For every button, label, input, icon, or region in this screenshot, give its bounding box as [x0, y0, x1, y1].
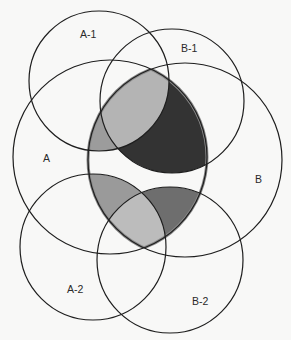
- venn-diagram: A-1 B-1 A B A-2 B-2: [0, 0, 291, 340]
- label-a-1: A-1: [80, 28, 97, 40]
- shading-in-A-and-B: [20, 11, 244, 333]
- label-b-2: B-2: [192, 295, 209, 307]
- label-b-1: B-1: [181, 42, 198, 54]
- label-a: A: [43, 152, 50, 164]
- shading-in-A: [20, 11, 244, 333]
- label-a-2: A-2: [67, 283, 84, 295]
- label-b: B: [255, 173, 262, 185]
- venn-svg: A-1 B-1 A B A-2 B-2: [0, 0, 291, 340]
